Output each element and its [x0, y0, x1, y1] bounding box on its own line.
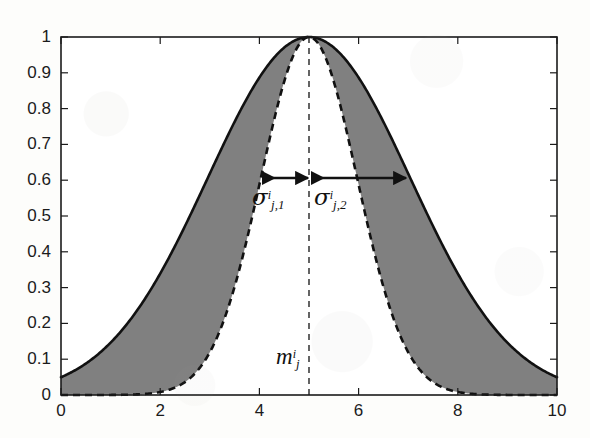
mean-base: m — [276, 344, 293, 369]
sigma-right-label: σij,2 — [314, 186, 346, 211]
x-tick-label-0: 0 — [31, 401, 91, 421]
y-tick-label-0.8: 0.8 — [0, 99, 51, 119]
y-tick-label-0.9: 0.9 — [0, 63, 51, 83]
y-tick-label-0.7: 0.7 — [0, 134, 51, 154]
x-tick-label-8: 8 — [428, 401, 488, 421]
sigma-left-base: σ — [252, 184, 268, 210]
x-tick-label-4: 4 — [229, 401, 289, 421]
gaussian-membership-plot — [0, 0, 590, 438]
x-tick-label-2: 2 — [130, 401, 190, 421]
y-tick-label-0.1: 0.1 — [0, 349, 51, 369]
x-tick-label-6: 6 — [329, 401, 389, 421]
y-tick-label-0.5: 0.5 — [0, 206, 51, 226]
y-tick-label-0.4: 0.4 — [0, 242, 51, 262]
figure-canvas: 00.10.20.30.40.50.60.70.80.91 0246810 σi… — [0, 0, 590, 438]
sigma-left-label: σij,1 — [252, 186, 284, 211]
y-tick-label-0.6: 0.6 — [0, 170, 51, 190]
sigma-left-subscript: j,1 — [271, 197, 284, 212]
y-tick-label-0.3: 0.3 — [0, 278, 51, 298]
sigma-right-subscript: j,2 — [333, 197, 346, 212]
y-tick-label-1: 1 — [0, 27, 51, 47]
y-tick-label-0.2: 0.2 — [0, 313, 51, 333]
x-tick-label-10: 10 — [527, 401, 587, 421]
mean-label: mij — [276, 345, 300, 370]
sigma-right-base: σ — [314, 184, 330, 210]
mean-subscript: j — [296, 356, 300, 371]
